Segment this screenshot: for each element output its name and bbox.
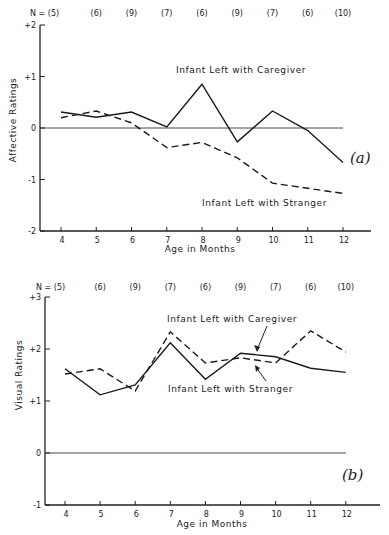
x-tick-label: 8 <box>204 510 209 519</box>
sample-size-label: (6) <box>305 283 316 292</box>
sample-size-label: (9) <box>235 283 246 292</box>
sample-size-labels: N = (5)(6)(9)(7)(6)(9)(7)(6)(10) <box>30 9 351 18</box>
sample-size-labels: N = (5)(6)(9)(7)(6)(9)(7)(6)(10) <box>36 283 354 292</box>
x-tick-label: 9 <box>239 510 244 519</box>
panel-tag: (b) <box>342 466 363 484</box>
y-axis-ticks: +3+2+10-1 <box>29 293 50 510</box>
sample-size-label: (6) <box>200 283 211 292</box>
x-tick-label: 5 <box>99 510 104 519</box>
series-label-stranger: Infant Left with Stranger <box>202 198 327 208</box>
sample-size-label: (7) <box>267 9 278 18</box>
x-axis-ticks: 456789101112 <box>63 501 351 519</box>
sample-size-label: (7) <box>270 283 281 292</box>
x-axis-ticks: 456789101112 <box>59 227 349 245</box>
sample-size-label: (7) <box>165 283 176 292</box>
x-tick-label: 4 <box>63 510 68 519</box>
y-tick-label: +2 <box>24 21 36 30</box>
x-tick-label: 10 <box>272 510 282 519</box>
y-tick-label: +3 <box>29 293 41 302</box>
x-axis-title: Age in Months <box>177 519 248 529</box>
sample-size-label: (9) <box>126 9 137 18</box>
y-axis-ticks: +2+10-1-2 <box>24 21 45 236</box>
x-tick-label: 7 <box>169 510 174 519</box>
y-tick-label: +1 <box>29 397 41 406</box>
figure: N = (5)(6)(9)(7)(6)(9)(7)(6)(10) +2+10-1… <box>0 0 389 535</box>
x-tick-label: 11 <box>304 236 314 245</box>
y-tick-label: 0 <box>36 449 41 458</box>
series-label-caregiver: Infant Left with Caregiver <box>167 314 297 324</box>
sample-size-label: (9) <box>130 283 141 292</box>
y-axis-title: Affective Ratings <box>8 78 18 163</box>
x-tick-label: 11 <box>307 510 317 519</box>
sample-size-label: (6) <box>302 9 313 18</box>
sample-size-label: (10) <box>338 283 354 292</box>
y-tick-label: +1 <box>24 73 36 82</box>
caregiver-series-line <box>61 84 343 162</box>
y-tick-label: +2 <box>29 345 41 354</box>
x-tick-label: 12 <box>342 510 352 519</box>
sample-size-label: (7) <box>161 9 172 18</box>
sample-size-label: N = (5) <box>30 9 59 18</box>
data-series <box>61 84 343 193</box>
x-tick-label: 10 <box>268 236 278 245</box>
x-tick-label: 6 <box>134 510 139 519</box>
axes <box>45 297 380 505</box>
series-label-caregiver: Infant Left with Caregiver <box>176 65 306 75</box>
x-tick-label: 12 <box>339 236 349 245</box>
y-tick-label: -1 <box>28 176 36 185</box>
series-label-stranger: Infant Left with Stranger <box>168 384 293 394</box>
chart-panel-b: N = (5)(6)(9)(7)(6)(9)(7)(6)(10) +3+2+10… <box>14 283 380 529</box>
x-tick-label: 4 <box>59 236 64 245</box>
x-tick-label: 9 <box>236 236 241 245</box>
stranger-series-line <box>61 111 343 193</box>
sample-size-label: (10) <box>335 9 351 18</box>
sample-size-label: (6) <box>91 9 102 18</box>
sample-size-label: (6) <box>196 9 207 18</box>
sample-size-label: (6) <box>94 283 105 292</box>
y-tick-label: 0 <box>31 124 36 133</box>
chart-panel-a: N = (5)(6)(9)(7)(6)(9)(7)(6)(10) +2+10-1… <box>8 9 371 254</box>
sample-size-label: (9) <box>232 9 243 18</box>
arrow-caregiver <box>257 326 267 350</box>
sample-size-label: N = (5) <box>36 283 65 292</box>
stranger-series-line <box>65 331 346 391</box>
y-axis-title: Visual Ratings <box>14 340 24 410</box>
y-tick-label: -2 <box>28 227 36 236</box>
x-tick-label: 6 <box>130 236 135 245</box>
x-axis-title: Age in Months <box>165 244 236 254</box>
y-tick-label: -1 <box>33 501 41 510</box>
panel-tag: (a) <box>350 149 371 167</box>
x-tick-label: 5 <box>95 236 100 245</box>
